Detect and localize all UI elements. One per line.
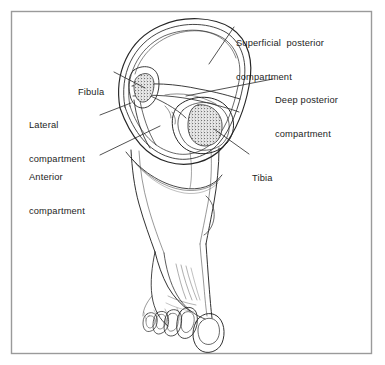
label-tibia-line1: Tibia (252, 173, 273, 184)
label-deep-posterior-compartment: Deep posterior compartment (275, 72, 338, 163)
label-anterior-compartment-line2: compartment (29, 206, 85, 217)
label-anterior-compartment: Anterior compartment (29, 149, 85, 240)
label-superficial-posterior-compartment-line1: Superficial posterior (236, 38, 324, 49)
label-deep-posterior-compartment-line2: compartment (275, 129, 338, 140)
label-tibia: Tibia (252, 150, 273, 207)
label-anterior-compartment-line1: Anterior (29, 172, 85, 183)
label-deep-posterior-compartment-line1: Deep posterior (275, 95, 338, 106)
label-lateral-compartment-line1: Lateral (29, 120, 85, 131)
anatomy-figure: Superficial posterior compartment Deep p… (0, 0, 385, 365)
